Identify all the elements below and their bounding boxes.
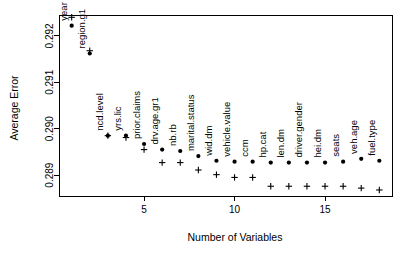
data-point-dot bbox=[287, 160, 291, 164]
x-tick-label: 5 bbox=[141, 204, 147, 215]
point-label: yrs.lic bbox=[112, 106, 123, 131]
data-point-dot bbox=[323, 160, 327, 164]
data-point-plus bbox=[87, 48, 93, 54]
data-point-dot bbox=[377, 159, 381, 163]
point-label: vehicle.value bbox=[221, 102, 232, 157]
data-point-plus bbox=[376, 187, 382, 193]
scatter-plot-figure: 0.2890.2900.2910.292 51015 yearregion.g1… bbox=[0, 0, 402, 267]
data-point-dot bbox=[359, 157, 363, 161]
data-point-dot bbox=[232, 160, 236, 164]
data-point-dot bbox=[341, 160, 345, 164]
data-point-dot bbox=[196, 154, 200, 158]
data-point-plus bbox=[213, 171, 219, 177]
x-axis-title: Number of Variables bbox=[188, 231, 283, 243]
point-label: wid.dm bbox=[203, 126, 214, 157]
data-point-plus bbox=[159, 159, 165, 165]
data-point-dot bbox=[269, 160, 273, 164]
y-tick-label: 0.290 bbox=[44, 116, 55, 141]
point-label: ncd.level bbox=[94, 93, 105, 131]
point-label: marital.status bbox=[185, 94, 196, 151]
data-point-plus bbox=[358, 185, 364, 191]
y-axis-ticks: 0.2890.2900.2910.292 bbox=[44, 23, 59, 188]
data-point-plus bbox=[231, 174, 237, 180]
data-point-plus bbox=[249, 174, 255, 180]
data-point-plus bbox=[105, 132, 111, 138]
point-label: drv.age.gr1 bbox=[149, 97, 160, 144]
data-point-plus bbox=[286, 183, 292, 189]
y-tick-label: 0.292 bbox=[44, 23, 55, 48]
data-point-plus bbox=[195, 167, 201, 173]
point-label: veh.age bbox=[348, 120, 359, 154]
data-point-dot bbox=[142, 142, 146, 146]
y-axis-title: Average Error bbox=[8, 75, 20, 141]
data-point-plus bbox=[177, 159, 183, 165]
point-label: hei.dm bbox=[312, 129, 323, 158]
point-label: fuel.type bbox=[366, 120, 377, 156]
point-label: year bbox=[58, 2, 69, 20]
data-point-plus bbox=[141, 146, 147, 152]
point-label: ccm bbox=[239, 139, 250, 156]
point-labels: yearregion.g1ncd.levelyrs.licprior.claim… bbox=[58, 2, 377, 157]
point-label: driver.gender bbox=[293, 102, 304, 157]
data-point-plus bbox=[340, 183, 346, 189]
point-label: seats bbox=[330, 134, 341, 157]
data-point-dot bbox=[214, 159, 218, 163]
data-point-dot bbox=[70, 24, 74, 28]
data-point-plus bbox=[123, 134, 129, 140]
x-axis-ticks: 51015 bbox=[141, 196, 331, 215]
data-point-dot bbox=[160, 147, 164, 151]
y-tick-label: 0.291 bbox=[44, 69, 55, 94]
data-point-plus bbox=[304, 183, 310, 189]
point-label: nb.rb bbox=[167, 124, 178, 146]
data-point-plus bbox=[322, 183, 328, 189]
data-point-plus bbox=[268, 183, 274, 189]
data-point-dot bbox=[305, 160, 309, 164]
point-label: len.dm bbox=[275, 129, 286, 158]
plot-canvas: 0.2890.2900.2910.292 51015 yearregion.g1… bbox=[0, 0, 402, 267]
y-tick-label: 0.289 bbox=[44, 162, 55, 187]
point-label: prior.claims bbox=[131, 91, 142, 139]
point-label: hp.cat bbox=[257, 131, 268, 157]
point-label: region.g1 bbox=[76, 9, 87, 49]
x-tick-label: 15 bbox=[319, 204, 331, 215]
data-point-dot bbox=[251, 160, 255, 164]
data-point-dot bbox=[178, 149, 182, 153]
x-tick-label: 10 bbox=[229, 204, 241, 215]
